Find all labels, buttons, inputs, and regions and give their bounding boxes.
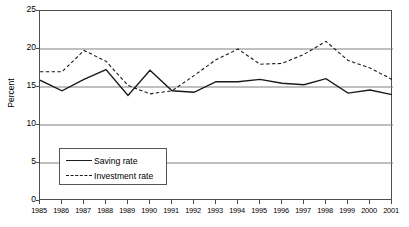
x-axis-tick-mark bbox=[259, 200, 260, 204]
legend-item-label: Investment rate bbox=[94, 171, 153, 181]
legend-item: Investment rate bbox=[64, 168, 166, 183]
x-axis-tick-mark bbox=[369, 200, 370, 204]
legend-swatch-dashed-line-icon bbox=[64, 171, 94, 181]
legend-swatch-solid-line-icon bbox=[64, 156, 94, 166]
x-axis-tick-mark bbox=[83, 200, 84, 204]
x-axis-tick-mark bbox=[171, 200, 172, 204]
x-axis-tick-mark bbox=[391, 200, 392, 204]
legend-item-label: Saving rate bbox=[94, 156, 137, 166]
x-axis-tick-mark bbox=[61, 200, 62, 204]
line-chart: Percent 2520151050 198519861987198819891… bbox=[0, 0, 409, 227]
x-axis-tick-mark bbox=[281, 200, 282, 204]
x-axis-tick-mark bbox=[39, 200, 40, 204]
x-axis-tick-mark bbox=[127, 200, 128, 204]
x-axis-tick-mark bbox=[347, 200, 348, 204]
legend: Saving rate Investment rate bbox=[59, 148, 167, 185]
x-axis-tick-mark bbox=[303, 200, 304, 204]
x-axis-tick-mark bbox=[193, 200, 194, 204]
x-axis-tick-mark bbox=[105, 200, 106, 204]
x-axis-tick-mark bbox=[237, 200, 238, 204]
x-axis-tick-mark bbox=[215, 200, 216, 204]
x-axis-ticks: 1985198619871988198919901991199219931994… bbox=[0, 0, 409, 227]
x-axis-tick-label: 2001 bbox=[376, 207, 406, 215]
x-axis-tick-mark bbox=[149, 200, 150, 204]
x-axis-tick-mark bbox=[325, 200, 326, 204]
legend-item: Saving rate bbox=[64, 153, 166, 168]
